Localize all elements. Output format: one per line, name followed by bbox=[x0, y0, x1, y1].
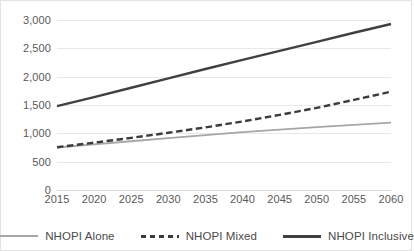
x-axis-tick-label: 2050 bbox=[304, 193, 329, 205]
legend-item[interactable]: NHOPI Inclusive bbox=[283, 230, 414, 242]
y-axis-tick-label: 1,000 bbox=[3, 127, 51, 139]
series-layer bbox=[57, 20, 391, 190]
series-line bbox=[57, 92, 391, 148]
x-axis-tick-label: 2035 bbox=[193, 193, 218, 205]
legend-item[interactable]: NHOPI Alone bbox=[0, 230, 115, 242]
x-axis-tick-label: 2025 bbox=[119, 193, 144, 205]
line-swatch-dashed-dark bbox=[141, 235, 179, 238]
legend-item-label: NHOPI Alone bbox=[45, 230, 115, 242]
series-line bbox=[57, 123, 391, 148]
x-axis-tick-label: 2045 bbox=[267, 193, 292, 205]
series-line bbox=[57, 24, 391, 106]
x-axis-tick-label: 2030 bbox=[156, 193, 181, 205]
y-axis-tick-label: 3,000 bbox=[3, 14, 51, 26]
legend-item-label: NHOPI Mixed bbox=[186, 230, 257, 242]
y-axis-tick-label: 2,000 bbox=[3, 71, 51, 83]
gridline bbox=[57, 190, 391, 191]
x-axis: 2015202020252030203520402045205020552060 bbox=[57, 193, 391, 209]
x-axis-tick-label: 2060 bbox=[379, 193, 404, 205]
line-swatch-solid-dark bbox=[283, 235, 321, 238]
y-axis-tick-label: 1,500 bbox=[3, 99, 51, 111]
y-axis: 05001,0001,5002,0002,5003,000 bbox=[1, 20, 51, 190]
line-swatch-solid-light bbox=[0, 235, 38, 237]
x-axis-tick-label: 2015 bbox=[45, 193, 70, 205]
x-axis-tick-label: 2020 bbox=[82, 193, 107, 205]
chart-legend: NHOPI AloneNHOPI MixedNHOPI Inclusive bbox=[1, 225, 413, 247]
plot-area bbox=[57, 20, 391, 190]
y-axis-tick-label: 500 bbox=[3, 156, 51, 168]
legend-item[interactable]: NHOPI Mixed bbox=[141, 230, 257, 242]
legend-item-label: NHOPI Inclusive bbox=[328, 230, 414, 242]
x-axis-tick-label: 2040 bbox=[230, 193, 255, 205]
y-axis-tick-label: 2,500 bbox=[3, 42, 51, 54]
x-axis-tick-label: 2055 bbox=[341, 193, 366, 205]
